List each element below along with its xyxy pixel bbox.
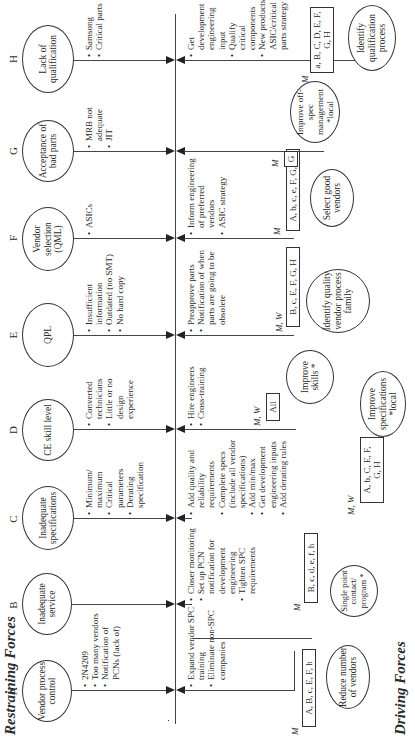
driving-bullets: Preapprove parts Notification of when pa… xyxy=(186,246,227,332)
impact-box: B, c, E, F, G, H xyxy=(286,247,300,327)
force-field-diagram: Restraining Forces Driving Forces A Vend… xyxy=(0,0,415,739)
column-letter: H xyxy=(7,49,19,69)
column-letter: D xyxy=(7,420,19,440)
restraining-bullets: ASICs xyxy=(84,165,94,235)
column-letter: F xyxy=(7,228,19,248)
bullet: Set up PCN notification for development … xyxy=(196,521,237,601)
connector xyxy=(168,720,169,721)
connector xyxy=(72,690,168,691)
bullet: Minimum/ maximum xyxy=(84,445,104,515)
column-letter: B xyxy=(7,595,19,615)
driving-ellipse: Select good vendors xyxy=(310,169,354,227)
driving-ellipse: Reduce number of vendors xyxy=(326,645,370,709)
bullet: ASICs xyxy=(84,165,94,235)
bullet: Qualify critical components xyxy=(227,0,258,57)
restraining-ellipse: Vendor process control xyxy=(22,660,72,722)
connector xyxy=(184,151,324,152)
bullet: JIT xyxy=(104,88,114,148)
impact-box: A, b, C, E, F, G, H xyxy=(360,437,384,503)
connector xyxy=(294,651,295,691)
driving-bullets: Hire engineers Cross-training xyxy=(186,346,206,426)
bullet: Outdated (no SMT) xyxy=(104,254,114,332)
bullet: Complete specs (include all vendor speci… xyxy=(217,433,248,515)
connector xyxy=(74,238,168,239)
bullet: Little or no design experience xyxy=(104,356,135,426)
bullet: Critical parameters xyxy=(104,445,124,515)
restraining-ellipse: Vendor selection (QML) xyxy=(22,207,74,271)
driving-marker: M xyxy=(292,604,302,612)
connector xyxy=(72,604,168,605)
driving-ellipse: Single point contact/ program * xyxy=(330,565,378,617)
restraining-ellipse: CE skill level xyxy=(22,399,74,461)
column-letter: C xyxy=(7,509,19,529)
connector xyxy=(184,429,296,430)
driving-marker: M xyxy=(272,228,282,236)
bullet: Notification of PCNs (lack of) xyxy=(100,605,120,687)
bullet: Get development engineering inputs xyxy=(257,433,277,515)
bullet: Insufficient information xyxy=(84,254,104,332)
connector xyxy=(74,429,168,430)
driving-marker: M, W xyxy=(346,496,356,516)
bullet: Add min/max xyxy=(247,433,257,515)
bullet: MRB not adequate xyxy=(84,88,104,148)
bullet: Tighten SPC requirements xyxy=(237,521,257,601)
driving-ellipse: Identify qualification process xyxy=(348,5,396,71)
arrow-down-icon xyxy=(166,331,175,339)
connector xyxy=(192,638,312,639)
bullet: ASIC strategy xyxy=(217,155,227,235)
bullet: Add derating rules xyxy=(278,433,288,515)
driving-bullets: Add quality and reliability requirements… xyxy=(186,433,288,515)
bullet: Notification of when parts are going to … xyxy=(196,246,227,332)
restraining-ellipse: Inadequate service xyxy=(22,573,72,635)
bullet: Inform engineering of preferred vendors xyxy=(186,155,217,235)
bullet: Preapprove parts xyxy=(186,246,196,332)
restraining-bullets: Converted technicians Little or no desig… xyxy=(84,356,135,426)
connector xyxy=(184,690,294,691)
impact-box: B, c, d, e, f, h xyxy=(304,533,318,603)
bullet: Eliminate non-SPC companies xyxy=(206,605,226,687)
arrow-down-icon xyxy=(166,514,175,522)
driving-ellipse: Identify quality vendor process family xyxy=(306,269,370,333)
bullet: Hire engineers xyxy=(186,346,196,426)
bullet: Closer monitoring xyxy=(186,521,196,601)
bullet: Derating specification xyxy=(125,445,145,515)
impact-box: G xyxy=(284,151,298,167)
restraining-ellipse: Lack of qualification xyxy=(22,25,74,93)
connector xyxy=(184,335,294,336)
column-letter: G xyxy=(7,141,19,161)
restraining-bullets: Samsong Critical parts xyxy=(84,0,104,57)
connector xyxy=(184,518,192,519)
driving-bullets: Expand vendor SPC training Eliminate non… xyxy=(186,605,227,687)
bullet: Get development engineering input xyxy=(186,0,227,57)
driving-marker: M, W xyxy=(252,407,262,427)
arrow-down-icon xyxy=(166,56,175,64)
restraining-ellipse: Acceptance of bad parts xyxy=(22,120,74,182)
arrow-down-icon xyxy=(166,686,175,694)
driving-ellipse: Improve skills * xyxy=(286,350,334,404)
driving-forces-title: Driving Forces xyxy=(392,641,409,735)
connector xyxy=(74,60,168,61)
bullet: Converted technicians xyxy=(84,356,104,426)
bullet: No hard copy xyxy=(115,254,125,332)
restraining-bullets: MRB not adequate JIT xyxy=(84,88,115,148)
bullet: Samsong xyxy=(84,0,94,57)
center-line xyxy=(175,14,176,724)
bullet: New products ASIC/critical parts strateg… xyxy=(257,0,288,57)
arrow-down-icon xyxy=(166,600,175,608)
connector xyxy=(74,518,168,519)
column-letter: E xyxy=(7,325,19,345)
driving-marker: M xyxy=(300,76,310,84)
bullet: Add quality and reliability requirements xyxy=(186,433,217,515)
impact-box: a, B, C, D, E, F, G, H xyxy=(310,7,334,73)
bullet: Critical parts xyxy=(94,0,104,57)
arrow-down-icon xyxy=(166,425,175,433)
connector xyxy=(184,604,192,605)
restraining-bullets: Minimum/ maximum Critical parameters Der… xyxy=(84,445,145,515)
column-letter: A xyxy=(7,681,19,701)
connector xyxy=(184,238,294,239)
driving-ellipse: Improve off-spec management *local xyxy=(290,81,340,143)
bullet: Cross-training xyxy=(196,346,206,426)
restraining-bullets: Insufficient information Outdated (no SM… xyxy=(84,254,125,332)
bullet: Expand vendor SPC training xyxy=(186,605,206,687)
arrow-down-icon xyxy=(166,234,175,242)
